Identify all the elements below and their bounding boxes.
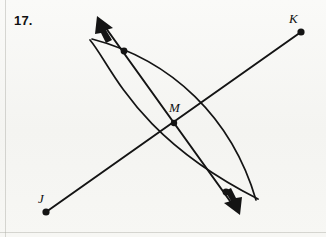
arc-intersection-dot-top [121, 48, 128, 55]
endpoint-dot-j [42, 208, 49, 215]
point-label-k: K [289, 11, 298, 27]
point-label-m: M [169, 100, 180, 116]
geometry-drawing [0, 0, 326, 237]
point-label-j: J [38, 191, 44, 207]
arrow-up-left-icon [95, 16, 113, 43]
figure-container: 17. J K M [0, 0, 326, 237]
compass-arc-left [90, 40, 258, 199]
problem-number: 17. [14, 13, 33, 28]
endpoint-dot-k [297, 28, 304, 35]
midpoint-dot-m [171, 120, 177, 126]
arc-intersection-dot-bottom [223, 189, 230, 196]
compass-arc-right [92, 39, 256, 200]
